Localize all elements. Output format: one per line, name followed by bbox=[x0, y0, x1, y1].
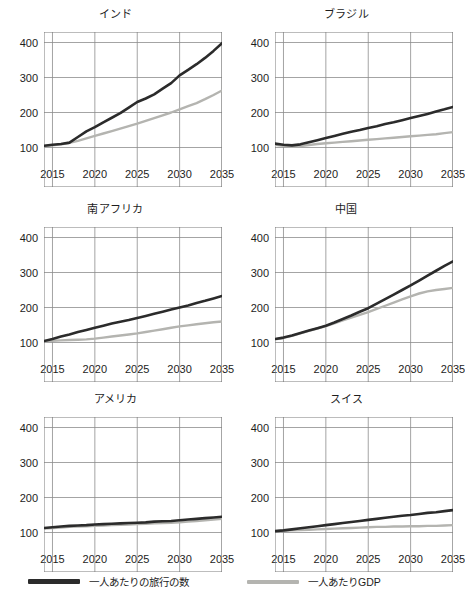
y-tick-label: 300 bbox=[251, 457, 269, 469]
y-tick-label: 400 bbox=[251, 37, 269, 49]
y-axis-labels: 100200300400 bbox=[231, 32, 271, 165]
panel-title: インド bbox=[0, 8, 231, 20]
legend-item-trips: 一人あたりの旅行の数 bbox=[28, 574, 189, 589]
series-line bbox=[44, 43, 222, 146]
y-tick-label: 200 bbox=[20, 492, 38, 504]
chart-panel: アメリカ10020030040020152020202520302035 bbox=[0, 385, 231, 575]
y-tick-label: 400 bbox=[20, 37, 38, 49]
y-tick-label: 100 bbox=[20, 337, 38, 349]
y-tick-label: 200 bbox=[251, 492, 269, 504]
legend-label-trips: 一人あたりの旅行の数 bbox=[89, 574, 189, 589]
plot-area bbox=[44, 32, 222, 165]
panel-title: スイス bbox=[231, 393, 462, 405]
legend-label-gdp: 一人あたりGDP bbox=[308, 574, 381, 589]
y-tick-label: 100 bbox=[20, 527, 38, 539]
series-line bbox=[44, 517, 222, 528]
y-tick-label: 300 bbox=[251, 267, 269, 279]
y-axis-labels: 100200300400 bbox=[0, 32, 40, 165]
y-tick-label: 100 bbox=[251, 527, 269, 539]
y-tick-label: 100 bbox=[20, 142, 38, 154]
y-tick-label: 400 bbox=[251, 232, 269, 244]
panel-grid: インド10020030040020152020202520302035ブラジル1… bbox=[0, 0, 462, 575]
y-tick-label: 400 bbox=[20, 232, 38, 244]
y-axis-labels: 100200300400 bbox=[0, 227, 40, 360]
chart-panel: インド10020030040020152020202520302035 bbox=[0, 0, 231, 195]
y-tick-label: 300 bbox=[251, 72, 269, 84]
series-line bbox=[44, 90, 222, 146]
y-tick-label: 400 bbox=[251, 422, 269, 434]
panel-title: 南アフリカ bbox=[0, 203, 231, 215]
y-tick-label: 200 bbox=[20, 302, 38, 314]
legend-item-gdp: 一人あたりGDP bbox=[247, 574, 381, 589]
y-tick-label: 300 bbox=[20, 267, 38, 279]
y-tick-label: 200 bbox=[251, 302, 269, 314]
y-axis-labels: 100200300400 bbox=[231, 227, 271, 360]
chart-panel: 中国10020030040020152020202520302035 bbox=[231, 195, 462, 385]
plot-area bbox=[44, 227, 222, 360]
panel-title: ブラジル bbox=[231, 8, 462, 20]
y-tick-label: 200 bbox=[20, 107, 38, 119]
series-line bbox=[275, 261, 453, 339]
y-tick-label: 100 bbox=[251, 337, 269, 349]
legend-swatch-gdp-icon bbox=[247, 580, 299, 584]
chart-panel: スイス10020030040020152020202520302035 bbox=[231, 385, 462, 575]
y-axis-labels: 100200300400 bbox=[0, 417, 40, 550]
plot-area bbox=[44, 417, 222, 550]
chart-legend: 一人あたりの旅行の数 一人あたりGDP bbox=[0, 574, 462, 596]
panel-title: 中国 bbox=[231, 203, 462, 215]
y-axis-labels: 100200300400 bbox=[231, 417, 271, 550]
y-tick-label: 200 bbox=[251, 107, 269, 119]
panel-title: アメリカ bbox=[0, 393, 231, 405]
plot-area bbox=[275, 32, 453, 165]
y-tick-label: 300 bbox=[20, 72, 38, 84]
chart-panel: ブラジル10020030040020152020202520302035 bbox=[231, 0, 462, 195]
y-tick-label: 300 bbox=[20, 457, 38, 469]
chart-panel: 南アフリカ10020030040020152020202520302035 bbox=[0, 195, 231, 385]
legend-swatch-trips-icon bbox=[28, 579, 80, 584]
y-tick-label: 100 bbox=[251, 142, 269, 154]
plot-area bbox=[275, 227, 453, 360]
y-tick-label: 400 bbox=[20, 422, 38, 434]
series-line bbox=[44, 322, 222, 342]
plot-area bbox=[275, 417, 453, 550]
